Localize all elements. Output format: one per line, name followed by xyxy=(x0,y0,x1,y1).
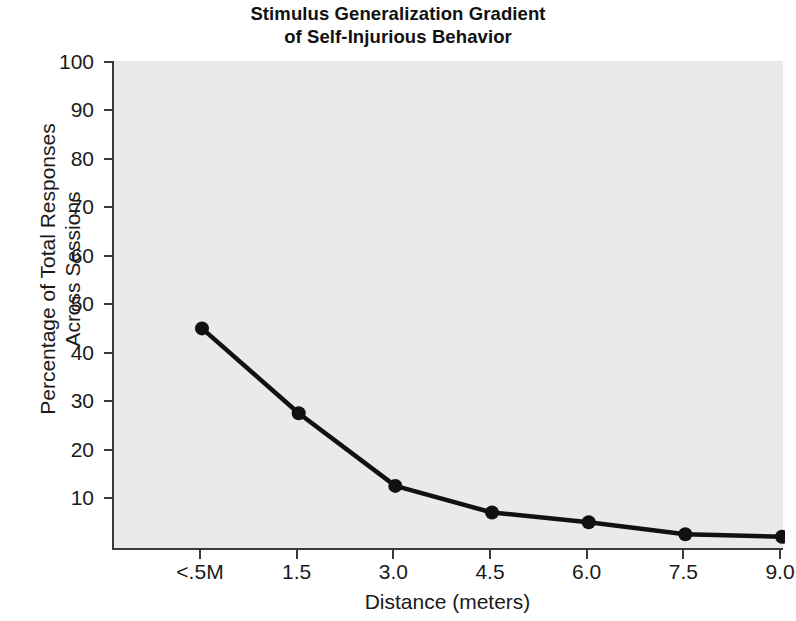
y-axis-tick xyxy=(104,449,114,451)
data-point-marker xyxy=(582,515,596,529)
x-axis-tick xyxy=(392,550,394,559)
y-axis-tick xyxy=(104,158,114,160)
data-series-svg xyxy=(114,61,785,550)
x-axis-tick xyxy=(489,550,491,559)
y-axis-tick-label: 50 xyxy=(34,293,94,314)
y-axis-tick xyxy=(104,303,114,305)
plot-area xyxy=(112,61,783,550)
x-axis-tick xyxy=(779,550,781,559)
y-axis-tick-label: 20 xyxy=(34,439,94,460)
x-axis-tick xyxy=(296,550,298,559)
data-point-marker xyxy=(195,321,209,335)
chart-title-line-2: of Self-Injurious Behavior xyxy=(0,25,796,48)
y-axis-tick xyxy=(104,61,114,63)
y-axis-tick xyxy=(104,497,114,499)
data-point-marker xyxy=(388,479,402,493)
data-point-marker xyxy=(678,527,692,541)
x-axis-tick xyxy=(586,550,588,559)
data-point-marker xyxy=(485,506,499,520)
y-axis-tick-label: 10 xyxy=(34,487,94,508)
series-markers xyxy=(195,321,785,543)
y-axis-tick-label: 70 xyxy=(34,196,94,217)
data-point-marker xyxy=(292,406,306,420)
y-axis-tick-label: 80 xyxy=(34,148,94,169)
x-axis-tick xyxy=(682,550,684,559)
x-axis-title: Distance (meters) xyxy=(112,590,783,614)
y-axis-tick-label: 40 xyxy=(34,342,94,363)
y-axis-tick xyxy=(104,109,114,111)
y-axis-tick-label: 30 xyxy=(34,390,94,411)
y-axis-tick-label: 60 xyxy=(34,245,94,266)
x-axis-tick xyxy=(199,550,201,559)
y-axis-tick xyxy=(104,352,114,354)
x-axis-tick-label: 9.0 xyxy=(720,560,796,584)
y-axis-tick xyxy=(104,255,114,257)
y-axis-tick-label: 90 xyxy=(34,99,94,120)
y-axis-tick-label: 100 xyxy=(34,51,94,72)
chart-title: Stimulus Generalization Gradient of Self… xyxy=(0,2,796,48)
chart-title-line-1: Stimulus Generalization Gradient xyxy=(0,2,796,25)
y-axis-tick xyxy=(104,206,114,208)
data-point-marker xyxy=(775,530,785,544)
chart-figure: Stimulus Generalization Gradient of Self… xyxy=(0,0,796,621)
y-axis-tick xyxy=(104,400,114,402)
